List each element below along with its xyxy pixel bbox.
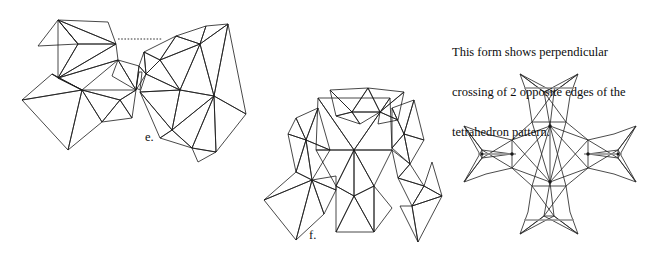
caption-line-3: tetrahedron pattern. — [452, 126, 626, 139]
explanatory-note: This form shows perpendicular crossing o… — [452, 20, 626, 165]
caption-line-1: This form shows perpendicular — [452, 46, 626, 59]
figure-plate: e. — [0, 0, 658, 261]
caption-line-2: crossing of 2 opposite edges of the — [452, 86, 626, 99]
